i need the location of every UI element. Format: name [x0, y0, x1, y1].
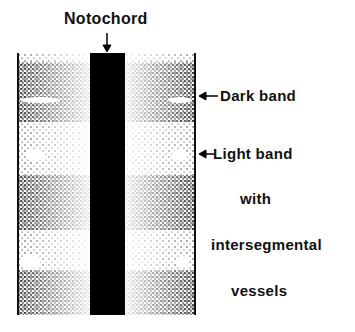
left-sclerotome [18, 53, 90, 315]
with-label: with [240, 190, 271, 207]
notochord-bar [90, 53, 125, 315]
light-band-label: Light band [213, 145, 293, 162]
light-band-arrow-icon [199, 150, 214, 158]
left-border [17, 53, 19, 315]
dark-band-label: Dark band [220, 87, 296, 104]
dark-band-arrow-icon [199, 92, 218, 100]
right-sclerotome [125, 53, 195, 315]
right-border [194, 53, 196, 315]
vessels-label: vessels [231, 282, 287, 299]
stipple-diagram [0, 0, 355, 332]
notochord-label: Notochord [64, 10, 148, 28]
intersegmental-label: intersegmental [211, 236, 322, 253]
notochord-arrow-icon [103, 33, 111, 52]
